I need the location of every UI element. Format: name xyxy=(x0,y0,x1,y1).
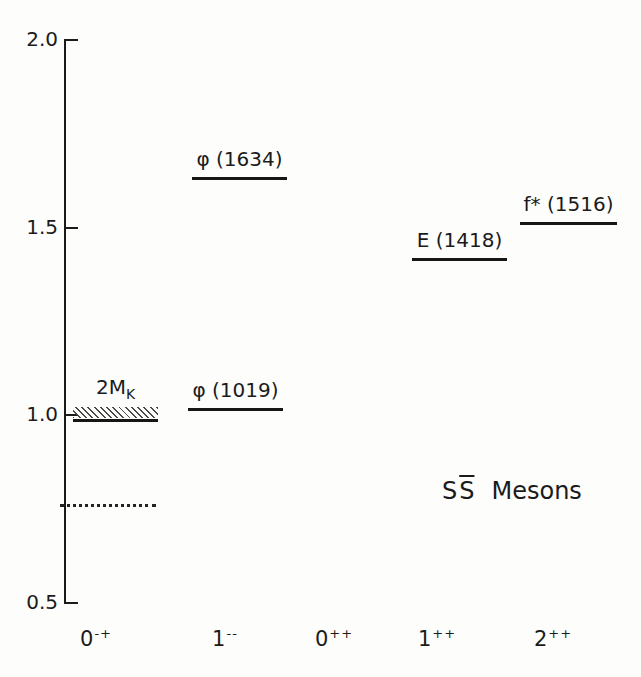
threshold-line xyxy=(73,419,158,422)
mesons-text: Mesons xyxy=(491,477,581,505)
s-quark-symbol: S xyxy=(442,477,457,505)
threshold-label-main: 2M xyxy=(96,375,126,399)
x-category-1-plus-plus: 1++ xyxy=(405,626,469,651)
x-category-2-plus-plus: 2++ xyxy=(521,626,585,651)
x-category-sup: ++ xyxy=(432,626,456,641)
x-category-sup: -- xyxy=(226,626,237,641)
x-category-base: 0 xyxy=(80,627,93,651)
level-line-phi-1019 xyxy=(188,408,283,411)
x-category-0-plus-plus: 0++ xyxy=(302,626,366,651)
hatched-band xyxy=(73,407,158,418)
ss-meson-energy-level-diagram: 2.0 1.5 1.0 0.5 φ (1634) φ (1019) E (141… xyxy=(0,0,641,677)
y-axis-tick-label-1-5: 1.5 xyxy=(12,215,58,239)
y-axis-tick-0-5 xyxy=(64,602,78,604)
x-category-base: 2 xyxy=(534,627,547,651)
ss-mesons-label: SSMesons xyxy=(442,477,582,505)
level-line-f-star-1516 xyxy=(520,222,617,225)
threshold-label-sub: K xyxy=(126,386,135,402)
s-antiquark-symbol: S xyxy=(459,477,474,505)
x-category-sup: ++ xyxy=(548,626,572,641)
y-axis-line xyxy=(64,40,66,604)
y-axis-tick-2-0 xyxy=(64,39,78,41)
y-axis-tick-1-5 xyxy=(64,227,78,229)
x-category-1-minus-minus: 1-- xyxy=(193,626,257,651)
x-category-base: 1 xyxy=(212,627,225,651)
threshold-label-2mk: 2MK xyxy=(73,375,158,402)
level-label-e-1418: E (1418) xyxy=(412,228,507,252)
dotted-level-line xyxy=(60,504,156,507)
level-label-phi-1019: φ (1019) xyxy=(188,378,283,402)
x-category-sup: ++ xyxy=(329,626,353,641)
level-line-phi-1634 xyxy=(192,177,287,180)
level-label-f-star-1516: f* (1516) xyxy=(520,192,617,216)
level-line-e-1418 xyxy=(412,258,507,261)
x-category-base: 0 xyxy=(315,627,328,651)
x-category-0-minus-plus: 0-+ xyxy=(64,626,128,651)
x-category-base: 1 xyxy=(418,627,431,651)
y-axis-tick-label-1-0: 1.0 xyxy=(12,402,58,426)
level-label-phi-1634: φ (1634) xyxy=(192,147,287,171)
y-axis-tick-label-0-5: 0.5 xyxy=(12,590,58,614)
y-axis-tick-label-2-0: 2.0 xyxy=(12,27,58,51)
x-category-sup: -+ xyxy=(94,626,112,641)
